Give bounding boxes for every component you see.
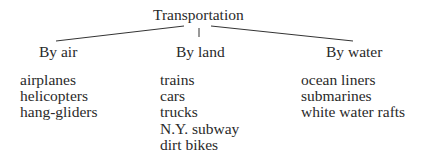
list-item: helicopters [20,88,97,104]
list-item: ocean liners [301,72,405,88]
list-item: N.Y. subway [160,121,239,137]
land-items: trains cars trucks N.Y. subway dirt bike… [160,72,239,153]
branch-by-air: By air [39,44,77,60]
branch-by-land: By land [176,44,225,60]
list-item: trains [160,72,239,88]
list-item: submarines [301,88,405,104]
list-item: white water rafts [301,104,405,120]
branch-by-water: By water [326,44,382,60]
air-items: airplanes helicopters hang-gliders [20,72,97,121]
list-item: trucks [160,104,239,120]
water-items: ocean liners submarines white water raft… [301,72,405,121]
list-item: dirt bikes [160,137,239,153]
list-item: hang-gliders [20,104,97,120]
list-item: airplanes [20,72,97,88]
list-item: cars [160,88,239,104]
